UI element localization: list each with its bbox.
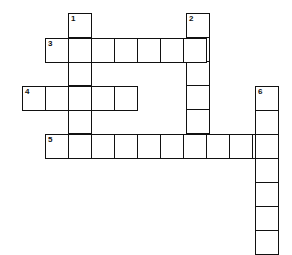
crossword-cell[interactable] xyxy=(186,109,210,134)
clue-number: 3 xyxy=(48,39,52,49)
crossword-cell[interactable] xyxy=(137,134,161,159)
crossword-cell[interactable] xyxy=(186,61,210,86)
crossword-cell[interactable] xyxy=(183,38,207,63)
crossword-cell[interactable] xyxy=(183,134,207,159)
crossword-cell[interactable] xyxy=(160,134,184,159)
crossword-cell[interactable] xyxy=(137,38,161,63)
crossword-cell[interactable] xyxy=(68,134,92,159)
crossword-cell[interactable] xyxy=(229,134,253,159)
crossword-cell[interactable]: 4 xyxy=(22,86,46,111)
crossword-cell[interactable] xyxy=(186,85,210,110)
crossword-cell[interactable] xyxy=(255,134,279,159)
crossword-cell[interactable] xyxy=(91,38,115,63)
crossword-cell[interactable] xyxy=(45,86,69,111)
clue-number: 1 xyxy=(71,14,75,24)
crossword-cell[interactable] xyxy=(114,134,138,159)
clue-number: 4 xyxy=(25,87,29,97)
crossword-cell[interactable] xyxy=(114,38,138,63)
crossword-cell[interactable] xyxy=(68,61,92,86)
crossword-cell[interactable] xyxy=(255,206,279,231)
crossword-cell[interactable]: 1 xyxy=(68,13,92,38)
crossword-cell[interactable] xyxy=(206,134,230,159)
crossword-cell[interactable]: 6 xyxy=(255,86,279,111)
crossword-cell[interactable] xyxy=(68,86,92,111)
crossword-cell[interactable] xyxy=(91,86,115,111)
clue-number: 5 xyxy=(48,135,52,145)
crossword-cell[interactable] xyxy=(160,38,184,63)
crossword-cell[interactable] xyxy=(68,109,92,134)
crossword-cell[interactable]: 2 xyxy=(186,13,210,38)
crossword-cell[interactable] xyxy=(114,86,138,111)
crossword-cell[interactable]: 5 xyxy=(45,134,69,159)
crossword-cell[interactable] xyxy=(255,158,279,183)
crossword-cell[interactable] xyxy=(255,110,279,135)
crossword-cell[interactable] xyxy=(255,230,279,255)
crossword-cell[interactable] xyxy=(255,182,279,207)
crossword-cell[interactable] xyxy=(68,38,92,63)
clue-number: 2 xyxy=(189,14,193,24)
crossword-cell[interactable] xyxy=(91,134,115,159)
crossword-cell[interactable]: 3 xyxy=(45,38,69,63)
clue-number: 6 xyxy=(258,87,262,97)
